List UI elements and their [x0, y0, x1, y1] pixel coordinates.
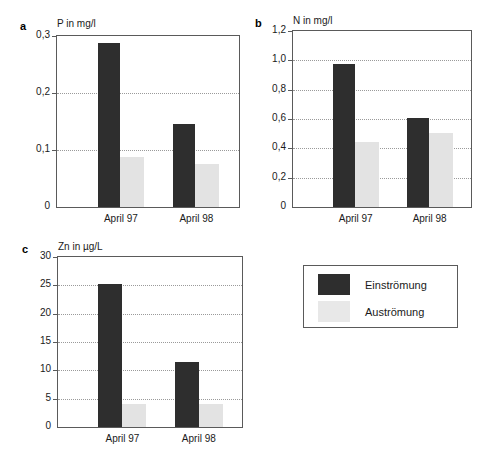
bar-austroemung	[195, 164, 219, 207]
y-tick-mark	[52, 36, 56, 37]
bar-einstroemung	[407, 118, 429, 207]
gridline	[58, 399, 242, 400]
panel-a-axis-title: P in mg/l	[57, 18, 96, 29]
y-tick-label: 1,0	[256, 53, 286, 64]
y-tick-mark	[53, 399, 57, 400]
y-tick-label: 0,4	[256, 141, 286, 152]
bar-einstroemung	[175, 362, 199, 427]
legend-row-austroemung: Auströmung	[318, 301, 424, 322]
gridline	[293, 119, 471, 120]
bar-einstroemung	[333, 64, 355, 207]
y-tick-mark	[288, 90, 292, 91]
gridline	[58, 342, 242, 343]
y-tick-label: 10	[21, 363, 51, 374]
y-tick-label: 0	[256, 200, 286, 211]
y-tick-label: 25	[21, 278, 51, 289]
legend-label-austroemung: Auströmung	[365, 306, 424, 318]
y-tick-label: 5	[21, 392, 51, 403]
x-tick-label: April 98	[156, 213, 236, 224]
gridline	[58, 285, 242, 286]
y-tick-mark	[288, 178, 292, 179]
y-tick-label: 0	[21, 420, 51, 431]
y-tick-label: 0	[20, 200, 50, 211]
y-tick-label: 30	[21, 250, 51, 261]
y-tick-mark	[52, 93, 56, 94]
y-tick-label: 0,6	[256, 112, 286, 123]
bar-austroemung	[429, 133, 453, 207]
gridline	[57, 150, 239, 151]
legend-swatch-light-icon	[318, 301, 350, 322]
gridline	[293, 60, 471, 61]
y-tick-mark	[53, 314, 57, 315]
bar-einstroemung	[98, 284, 122, 427]
y-tick-mark	[288, 119, 292, 120]
y-tick-mark	[53, 257, 57, 258]
panel-c-plot-area	[57, 256, 243, 428]
gridline	[57, 93, 239, 94]
panel-b-plot-area	[292, 30, 472, 208]
x-tick-label: April 97	[81, 213, 161, 224]
legend-row-einstroemung: Einströmung	[318, 274, 427, 295]
y-tick-mark	[288, 31, 292, 32]
legend-swatch-dark-icon	[318, 274, 350, 295]
y-tick-label: 0,8	[256, 83, 286, 94]
legend: Einströmung Auströmung	[303, 265, 458, 328]
bar-einstroemung	[98, 43, 120, 207]
y-tick-mark	[288, 148, 292, 149]
x-tick-label: April 98	[159, 433, 239, 444]
x-tick-label: April 97	[82, 433, 162, 444]
y-tick-label: 0,3	[20, 29, 50, 40]
y-tick-label: 15	[21, 335, 51, 346]
y-tick-mark	[53, 342, 57, 343]
gridline	[293, 90, 471, 91]
bar-austroemung	[355, 142, 379, 207]
bar-austroemung	[199, 404, 223, 427]
bar-austroemung	[120, 157, 144, 207]
y-tick-label: 20	[21, 307, 51, 318]
x-tick-label: April 98	[390, 213, 470, 224]
y-tick-label: 0,2	[256, 171, 286, 182]
panel-c-axis-title: Zn in µg/L	[58, 241, 103, 252]
y-tick-label: 1,2	[256, 24, 286, 35]
bar-austroemung	[122, 404, 146, 427]
y-tick-mark	[52, 150, 56, 151]
y-tick-mark	[288, 60, 292, 61]
y-tick-mark	[53, 370, 57, 371]
gridline	[58, 314, 242, 315]
y-tick-label: 0,1	[20, 143, 50, 154]
y-tick-label: 0,2	[20, 86, 50, 97]
bar-einstroemung	[173, 124, 195, 207]
y-tick-mark	[53, 285, 57, 286]
x-tick-label: April 97	[316, 213, 396, 224]
panel-a-plot-area	[56, 35, 240, 208]
gridline	[58, 370, 242, 371]
panel-b-axis-title: N in mg/l	[293, 15, 332, 26]
legend-label-einstroemung: Einströmung	[365, 279, 427, 291]
